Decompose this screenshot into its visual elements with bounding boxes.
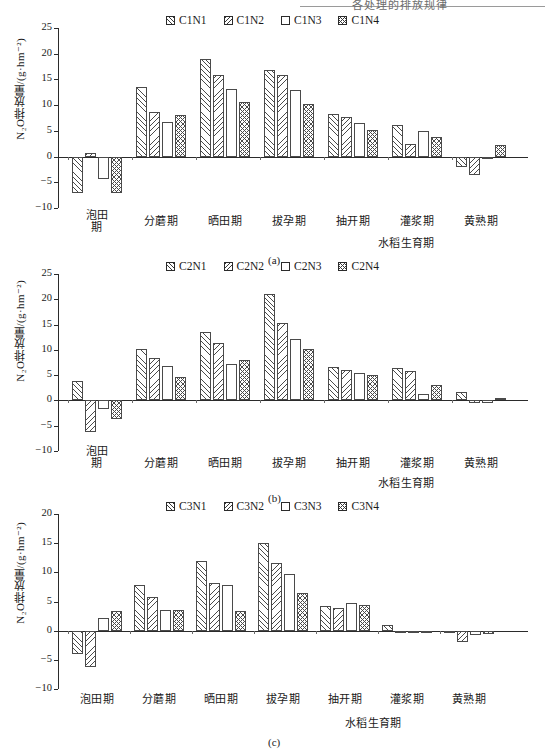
bar	[470, 631, 481, 636]
y-axis-tick-label: −5	[22, 419, 52, 430]
bar	[341, 370, 352, 400]
y-axis-tick-label: 20	[22, 292, 52, 303]
x-axis-minor-tick	[440, 631, 441, 634]
bar	[431, 385, 442, 400]
legend-item[interactable]: C3N2	[224, 500, 264, 512]
legend-a: C1N1 C1N2 C1N3 C1N4	[0, 10, 545, 30]
x-axis-minor-tick	[324, 157, 325, 160]
x-axis-minor-tick	[132, 157, 133, 160]
bar	[290, 339, 301, 401]
y-axis-tick	[54, 375, 58, 376]
x-axis-category-label: 分蘑期	[131, 212, 191, 228]
y-axis-line	[58, 28, 59, 208]
bar	[277, 75, 288, 156]
legend-item[interactable]: C3N1	[166, 500, 206, 512]
bar	[147, 597, 158, 631]
x-axis-minor-tick	[316, 631, 317, 634]
legend-swatch-diagonal-hatch-icon	[166, 16, 175, 25]
x-axis-minor-tick	[68, 157, 69, 160]
bar	[98, 400, 109, 409]
bar	[495, 398, 506, 400]
x-axis-title-c: 水稻生育期	[345, 714, 402, 730]
legend-item[interactable]: C3N3	[281, 500, 321, 512]
x-axis-category-label: 抽开期	[315, 690, 375, 706]
bar	[328, 367, 339, 401]
y-axis-tick-label: 5	[22, 368, 52, 379]
y-axis-tick-label: 5	[22, 595, 52, 606]
y-axis-tick-label: −10	[22, 682, 52, 693]
y-axis-line	[58, 274, 59, 451]
bar	[136, 349, 147, 401]
bar	[341, 117, 352, 156]
x-axis-category-label: 晒田期	[195, 454, 255, 470]
legend-item[interactable]: C3N4	[338, 500, 378, 512]
x-axis-category-label: 灌浆期	[387, 212, 447, 228]
y-axis-tick	[54, 182, 58, 183]
legend-item[interactable]: C1N1	[166, 14, 206, 26]
x-axis-minor-tick	[68, 400, 69, 403]
legend-item[interactable]: C2N4	[338, 260, 378, 272]
bar	[85, 631, 96, 668]
legend-swatch-empty-icon	[281, 262, 290, 271]
bar	[160, 610, 171, 631]
x-axis-minor-tick	[130, 631, 131, 634]
y-axis-tick	[54, 28, 58, 29]
bar	[297, 593, 308, 630]
x-axis-category-label: 灌浆期	[377, 690, 437, 706]
bar	[136, 87, 147, 157]
legend-item[interactable]: C1N2	[224, 14, 264, 26]
chart-panel-a: C1N1 C1N2 C1N3 C1N4 N₂O排放量/(g·hm⁻²) −10−…	[0, 10, 545, 260]
bar	[346, 603, 357, 631]
legend-c: C3N1 C3N2 C3N3 C3N4	[0, 496, 545, 516]
legend-label: C3N4	[351, 500, 378, 512]
bar	[405, 371, 416, 400]
y-axis-tick-label: 15	[22, 536, 52, 547]
y-axis-tick-label: 10	[22, 343, 52, 354]
legend-label: C2N2	[237, 260, 264, 272]
x-axis-category-label: 泡田期	[84, 446, 110, 469]
bar	[303, 349, 314, 400]
legend-item[interactable]: C2N1	[166, 260, 206, 272]
y-axis-tick	[54, 208, 58, 209]
bar	[162, 122, 173, 157]
bar	[72, 631, 83, 654]
bar	[264, 70, 275, 156]
y-axis-tick	[54, 543, 58, 544]
legend-b: C2N1 C2N2 C2N3 C2N4	[0, 256, 545, 276]
bar	[111, 611, 122, 630]
y-axis-tick-label: −5	[22, 653, 52, 664]
legend-item[interactable]: C1N3	[281, 14, 321, 26]
x-axis-minor-tick	[260, 400, 261, 403]
legend-swatch-diagonal-hatch-icon	[166, 502, 175, 511]
y-axis-tick	[54, 689, 58, 690]
bar	[209, 583, 220, 630]
y-axis-tick-label: 10	[22, 565, 52, 576]
legend-label: C2N3	[294, 260, 321, 272]
bar	[303, 104, 314, 157]
legend-item[interactable]: C1N4	[338, 14, 378, 26]
bar	[162, 366, 173, 400]
y-axis-tick-label: 25	[22, 21, 52, 32]
bar	[196, 561, 207, 630]
bar	[495, 145, 506, 156]
legend-item[interactable]: C2N2	[224, 260, 264, 272]
legend-item[interactable]: C2N3	[281, 260, 321, 272]
bar	[456, 157, 467, 167]
bar	[382, 625, 393, 631]
y-axis-tick	[54, 54, 58, 55]
y-axis-line	[58, 514, 59, 689]
y-axis-tick	[54, 299, 58, 300]
bar	[483, 631, 494, 634]
y-axis-tick-label: −5	[22, 175, 52, 186]
chart-panel-b: C2N1 C2N2 C2N3 C2N4 N₂O排放量/(g·hm⁻²) −10−…	[0, 256, 545, 498]
bar	[134, 585, 145, 631]
legend-swatch-diagonal-hatch-icon	[166, 262, 175, 271]
y-axis-tick-label: −10	[22, 201, 52, 212]
x-axis-title-b: 水稻生育期	[378, 474, 435, 490]
legend-label: C3N1	[179, 500, 206, 512]
y-axis-tick-label: 15	[22, 318, 52, 329]
x-axis-category-label: 黄熟期	[451, 454, 511, 470]
bar	[72, 157, 83, 193]
legend-swatch-checker-hatch-icon	[338, 502, 347, 511]
bar	[405, 144, 416, 157]
